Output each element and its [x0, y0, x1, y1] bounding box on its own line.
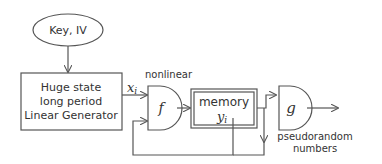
f-gate: f	[148, 86, 182, 130]
yi-label: yi	[216, 109, 227, 125]
output-label-line-1: pseudorandom	[277, 131, 352, 142]
g-label: g	[286, 99, 296, 117]
nonlinear-label: nonlinear	[145, 69, 193, 80]
f-label: f	[157, 100, 166, 116]
xi-label: xi	[127, 80, 137, 96]
linear-generator-box: Huge state long period Linear Generator	[21, 73, 122, 130]
memory-label: memory	[199, 95, 249, 109]
diagram-canvas: Key, IV Huge state long period Linear Ge…	[0, 0, 382, 164]
generator-line-1: Huge state	[41, 81, 102, 94]
key-iv-label: Key, IV	[49, 24, 87, 37]
generator-line-3: Linear Generator	[24, 109, 118, 122]
memory-to-g-arrow	[257, 95, 276, 108]
memory-feedback-line	[233, 142, 264, 155]
generator-line-2: long period	[40, 95, 102, 108]
memory-box: memory yi	[191, 89, 257, 128]
key-iv-node: Key, IV	[33, 14, 103, 46]
output-label-line-2: numbers	[293, 143, 337, 154]
